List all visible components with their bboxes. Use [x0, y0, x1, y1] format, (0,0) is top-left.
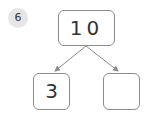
- part-box-right-empty[interactable]: [103, 73, 140, 110]
- arrow-right: [86, 46, 118, 71]
- arrow-left: [55, 46, 86, 71]
- whole-box: 10: [58, 10, 115, 46]
- part-box-left: 3: [33, 73, 70, 110]
